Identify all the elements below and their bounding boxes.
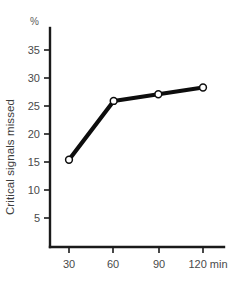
- line-chart: % Critical signals missed 35 30 25 20 15…: [0, 0, 244, 281]
- data-point-marker: [110, 98, 117, 105]
- x-tick-label: 60: [107, 258, 119, 270]
- y-axis-unit-label: %: [30, 16, 39, 27]
- x-tick-label: 30: [63, 258, 75, 270]
- data-point-marker: [66, 156, 73, 163]
- y-tick-label: 15: [28, 156, 40, 168]
- y-axis-title: Critical signals missed: [4, 99, 16, 215]
- y-tick-label: 20: [28, 128, 40, 140]
- y-tick-label: 5: [34, 212, 40, 224]
- chart-figure: % Critical signals missed 35 30 25 20 15…: [0, 0, 244, 281]
- y-tick-label: 10: [28, 184, 40, 196]
- data-point-marker: [155, 91, 162, 98]
- y-tick-label: 30: [28, 72, 40, 84]
- data-point-marker: [200, 84, 207, 91]
- x-tick-label: 90: [153, 258, 165, 270]
- chart-background: [0, 0, 244, 281]
- y-tick-label: 25: [28, 100, 40, 112]
- x-tick-label: 120 min: [188, 258, 227, 270]
- y-tick-label: 35: [28, 44, 40, 56]
